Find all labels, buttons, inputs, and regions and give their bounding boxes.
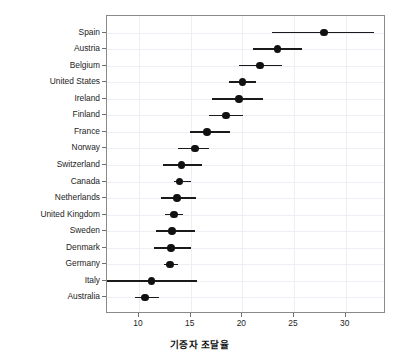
data-point (274, 45, 282, 53)
gridline-horizontal (107, 215, 384, 216)
y-tick-label: Italy (85, 276, 100, 284)
y-tick-label: Switzerland (57, 160, 100, 168)
data-point (167, 244, 175, 252)
x-tick-mark (293, 313, 294, 317)
y-tick-label: United States (50, 77, 100, 85)
x-tick-label: 30 (340, 319, 349, 327)
data-point (173, 194, 181, 202)
gridline-vertical (346, 16, 347, 312)
gridline-horizontal (107, 198, 384, 199)
gridline-horizontal (107, 248, 384, 249)
gridline-horizontal (107, 264, 384, 265)
data-point (235, 95, 243, 103)
y-tick-label: United Kingdom (40, 209, 100, 217)
y-tick-label: Ireland (74, 94, 100, 102)
y-tick-label: Denmark (66, 243, 100, 251)
gridline-horizontal (107, 115, 384, 116)
data-point (148, 277, 156, 285)
gridline-horizontal (107, 132, 384, 133)
gridline-horizontal (107, 49, 384, 50)
gridline-vertical (242, 16, 243, 312)
y-axis: SpainAustriaBelgiumUnited StatesIrelandF… (0, 0, 100, 361)
x-tick-mark (241, 313, 242, 317)
x-tick-label: 15 (185, 319, 194, 327)
x-tick-label: 10 (133, 319, 142, 327)
y-tick-label: Netherlands (55, 193, 100, 201)
x-tick-mark (190, 313, 191, 317)
y-tick-label: Sweden (70, 226, 100, 234)
data-point (256, 62, 264, 70)
data-point (203, 128, 211, 136)
data-point (141, 294, 149, 302)
y-tick-label: Spain (79, 27, 100, 35)
dot-plot-chart: SpainAustriaBelgiumUnited StatesIrelandF… (0, 0, 399, 361)
data-point (178, 161, 186, 169)
y-tick-label: Austria (74, 44, 100, 52)
data-point (191, 145, 199, 153)
gridline-horizontal (107, 165, 384, 166)
data-point (170, 211, 178, 219)
gridline-vertical (294, 16, 295, 312)
data-point (239, 78, 247, 86)
y-tick-label: Belgium (70, 60, 100, 68)
x-axis-title: 기증자 조달율 (0, 337, 399, 351)
gridline-vertical (139, 16, 140, 312)
x-tick-label: 20 (237, 319, 246, 327)
x-tick-mark (345, 313, 346, 317)
x-tick-label: 25 (288, 319, 297, 327)
plot-area (106, 15, 385, 313)
y-tick-label: Canada (71, 176, 100, 184)
data-point (166, 261, 174, 269)
gridline-horizontal (107, 231, 384, 232)
y-tick-label: Finland (73, 110, 100, 118)
y-tick-label: Australia (67, 292, 100, 300)
data-point (222, 112, 230, 120)
data-point (176, 178, 184, 186)
y-tick-label: Germany (66, 259, 100, 267)
y-tick-label: Norway (72, 143, 100, 151)
data-point (320, 29, 328, 37)
data-point (168, 227, 176, 235)
x-tick-mark (138, 313, 139, 317)
gridline-horizontal (107, 182, 384, 183)
y-tick-label: France (74, 127, 100, 135)
gridline-horizontal (107, 148, 384, 149)
